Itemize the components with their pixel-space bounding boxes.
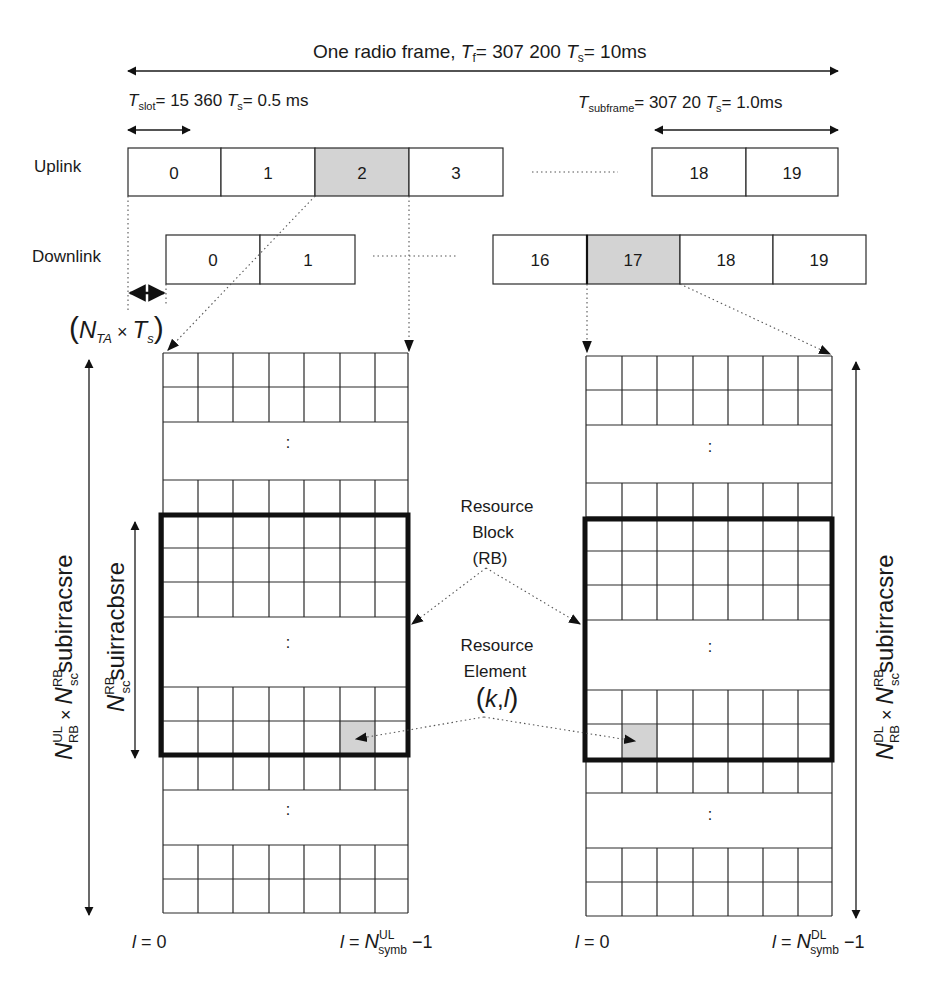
svg-text:(RB): (RB)	[473, 549, 508, 568]
uplink-symbol-end-label: l = NULsymb −1	[340, 928, 433, 957]
svg-text:NDLRB × NRBscsubirracsre: NDLRB × NRBscsubirracsre	[871, 554, 902, 760]
svg-text:Tsubframe= 307 20 Ts= 1.0ms: Tsubframe= 307 20 Ts= 1.0ms	[578, 93, 782, 114]
grid-ellipsis: :	[286, 801, 290, 818]
resource-block-subcarriers-label: NRBscsuirracbsre	[102, 562, 133, 712]
lte-frame-structure-diagram: One radio frame, Tf= 307 200 Ts= 10ms Ts…	[0, 0, 939, 983]
resource-block-annotation: Resource Block (RB)	[461, 497, 534, 568]
svg-text:1: 1	[303, 251, 312, 270]
svg-text:Tslot= 15 360 Ts= 0.5 ms: Tslot= 15 360 Ts= 0.5 ms	[128, 91, 308, 112]
uplink-symbol-start-label: l = 0	[132, 932, 167, 952]
grid-ellipsis: :	[286, 434, 290, 451]
resource-element-pointer-right	[484, 717, 635, 741]
downlink-resource-element-highlighted[interactable]	[622, 725, 658, 759]
uplink-slot-row: 0 1 2 3 18 19	[128, 148, 838, 196]
uplink-subcarriers-label: NULRB × NRBscsubirracsre	[50, 554, 81, 760]
svg-text:NRBscsuirracbsre: NRBscsuirracbsre	[102, 562, 133, 712]
resource-block-pointer-right	[486, 568, 580, 624]
grid-ellipsis: :	[708, 638, 712, 655]
svg-text:17: 17	[624, 251, 643, 270]
svg-text:18: 18	[717, 251, 736, 270]
svg-text:Resource: Resource	[461, 497, 534, 516]
svg-text:(k,l): (k,l)	[476, 682, 519, 713]
downlink-symbol-start-label: l = 0	[575, 932, 610, 952]
svg-text:One radio frame, Tf= 307 200 T: One radio frame, Tf= 307 200 Ts= 10ms	[313, 41, 647, 65]
uplink-resource-grid: : : :	[161, 353, 408, 913]
grid-ellipsis: :	[708, 438, 712, 455]
radio-frame-label: One radio frame, Tf= 307 200 Ts= 10ms	[313, 41, 647, 65]
uplink-label: Uplink	[34, 157, 82, 176]
svg-text:0: 0	[208, 251, 217, 270]
downlink-slot-mapping-arrow-right	[680, 284, 830, 354]
downlink-symbol-end-label: l = NDLsymb −1	[772, 928, 865, 957]
svg-text:16: 16	[531, 251, 550, 270]
svg-text:Block: Block	[472, 523, 514, 542]
svg-text:18: 18	[690, 164, 709, 183]
svg-text:3: 3	[451, 164, 460, 183]
svg-text:19: 19	[810, 251, 829, 270]
slot-duration-label: Tslot= 15 360 Ts= 0.5 ms	[128, 91, 308, 112]
subframe-duration-label: Tsubframe= 307 20 Ts= 1.0ms	[578, 93, 782, 114]
svg-text:NULRB × NRBscsubirracsre: NULRB × NRBscsubirracsre	[50, 554, 81, 760]
svg-text:19: 19	[783, 164, 802, 183]
grid-ellipsis: :	[286, 634, 290, 651]
grid-ellipsis: :	[708, 806, 712, 823]
resource-element-annotation: Resource Element (k,l)	[461, 636, 534, 713]
svg-text:1: 1	[263, 164, 272, 183]
uplink-resource-element-highlighted[interactable]	[339, 721, 375, 755]
downlink-resource-grid: : : :	[585, 356, 832, 916]
svg-text:0: 0	[169, 164, 178, 183]
downlink-subcarriers-label: NDLRB × NRBscsubirracsre	[871, 554, 902, 760]
resource-block-pointer-left	[412, 568, 486, 624]
timing-advance-label: (NTA × Ts)	[69, 311, 164, 346]
svg-text:Element: Element	[464, 662, 527, 681]
svg-text:2: 2	[357, 164, 366, 183]
svg-text:(NTA × Ts): (NTA × Ts)	[69, 311, 164, 346]
svg-text:Resource: Resource	[461, 636, 534, 655]
downlink-label: Downlink	[32, 247, 101, 266]
